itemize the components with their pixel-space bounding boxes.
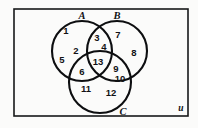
region-number-4: 4 — [101, 41, 107, 52]
region-number-8: 8 — [131, 47, 136, 58]
region-number-10: 10 — [115, 73, 126, 84]
region-number-12: 12 — [106, 87, 117, 98]
venn-diagram-canvas: A B C 1 2 5 3 4 7 8 13 6 9 10 11 12 u — [0, 0, 198, 128]
region-number-13: 13 — [93, 56, 104, 67]
set-label-b: B — [112, 10, 120, 21]
region-number-6: 6 — [79, 66, 84, 77]
venn-diagram-page: A B C 1 2 5 3 4 7 8 13 6 9 10 11 12 u — [0, 0, 198, 128]
region-number-5: 5 — [59, 54, 65, 65]
universe-label: u — [178, 103, 183, 113]
region-number-2: 2 — [73, 45, 78, 56]
region-number-7: 7 — [115, 29, 120, 40]
set-label-a: A — [77, 10, 85, 21]
region-number-3: 3 — [94, 32, 99, 43]
set-label-c: C — [119, 106, 127, 117]
region-number-1: 1 — [63, 25, 69, 36]
region-number-11: 11 — [81, 83, 92, 94]
